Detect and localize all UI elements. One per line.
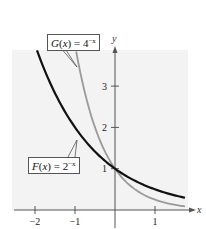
f-function-label: F(x) = 2−x — [28, 157, 80, 174]
x-tick-label: −1 — [70, 216, 81, 227]
y-tick-label: 3 — [102, 81, 107, 92]
y-axis-label: y — [111, 33, 117, 44]
exponential-chart: −2−11123 x y — [0, 0, 206, 229]
g-function-label: G(x) = 4−x — [47, 34, 100, 51]
y-tick-label: 2 — [102, 122, 107, 133]
x-axis-label: x — [196, 204, 202, 215]
x-tick-label: −2 — [30, 216, 41, 227]
f-fn-name: F — [32, 160, 39, 172]
g-fn-arg: x — [63, 37, 68, 49]
g-fn-exp: −x — [88, 37, 95, 45]
y-axis-arrow-icon — [113, 46, 118, 53]
f-fn-arg: x — [42, 160, 47, 172]
plot-background — [12, 50, 188, 210]
g-fn-name: G — [51, 37, 59, 49]
f-fn-exp: −x — [68, 160, 75, 168]
x-axis-arrow-icon — [189, 208, 196, 213]
x-tick-label: 1 — [153, 216, 158, 227]
y-tick-label: 1 — [102, 163, 107, 174]
